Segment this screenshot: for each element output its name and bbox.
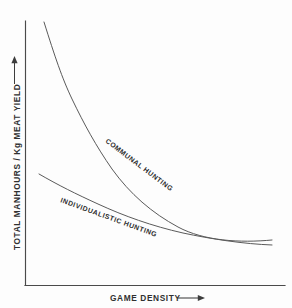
x-axis-arrow-icon: [177, 295, 205, 301]
y-axis-arrow-icon: [11, 56, 17, 84]
curve-label-individualistic: INDIVIDUALISTIC HUNTING: [60, 196, 159, 238]
curve-label-communal: COMMUNAL HUNTING: [104, 137, 174, 192]
chart-canvas: COMMUNAL HUNTING INDIVIDUALISTIC HUNTING…: [0, 0, 292, 308]
axis-group: [25, 21, 285, 286]
y-axis-label-group: TOTAL MANHOURS / Kg MEAT YIELD: [11, 56, 22, 250]
y-axis-label: TOTAL MANHOURS / Kg MEAT YIELD: [12, 84, 22, 250]
x-axis-label-group: GAME DENSITY: [110, 293, 205, 303]
data-curves: [39, 22, 272, 245]
chart-figure: COMMUNAL HUNTING INDIVIDUALISTIC HUNTING…: [0, 0, 292, 308]
x-axis-label: GAME DENSITY: [110, 293, 181, 303]
curve-label-group: COMMUNAL HUNTING INDIVIDUALISTIC HUNTING: [60, 137, 175, 238]
